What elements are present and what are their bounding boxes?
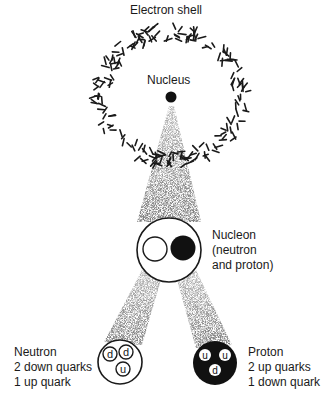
nucleus-label: Nucleus [147,73,190,88]
quark-label: u [120,363,126,375]
quark-label: u [202,350,208,361]
quark-label: d [212,365,218,376]
proton-icon: u u d [193,341,237,385]
zoom-cone-nucleon-to-neutron [104,270,162,345]
proton-label: Proton 2 up quarks 1 down quark [248,345,320,390]
zoom-cone-nucleon-to-proton [176,270,232,348]
neutron-circle-icon [143,237,167,261]
neutron-label: Neutron 2 down quarks 1 up quark [14,345,92,390]
electron-shell-label: Electron shell [130,3,202,18]
nucleon-label: Nucleon (neutron and proton) [212,228,273,273]
nucleus-dot [166,92,177,103]
proton-circle-icon [171,236,196,261]
quark-label: d [107,348,113,360]
atom-structure-diagram: d d u u u d [0,0,335,404]
quark-label: u [222,350,228,361]
neutron-icon: d d u [98,340,142,384]
nucleon-icon [137,218,201,282]
quark-label: d [123,346,129,358]
